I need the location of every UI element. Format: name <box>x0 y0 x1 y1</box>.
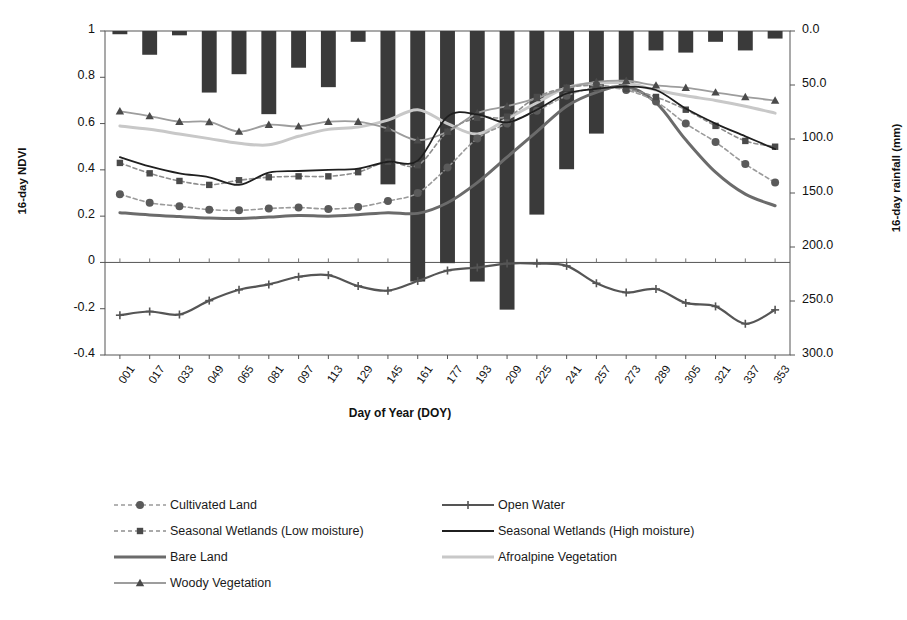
rainfall-bar <box>470 31 485 282</box>
rainfall-bar <box>500 31 515 310</box>
y-right-tick-label: 0.0 <box>802 22 862 36</box>
marker-circle <box>205 206 213 214</box>
legend-swatch-icon <box>440 524 496 538</box>
marker-square <box>444 128 450 134</box>
marker-square <box>137 528 143 534</box>
legend-swatch-icon <box>112 576 168 590</box>
legend-swatch-icon <box>112 498 168 512</box>
y-left-tick-label: -0.2 <box>43 300 95 314</box>
y-right-tick-label: 150.0 <box>802 184 862 198</box>
marker-circle <box>741 160 749 168</box>
marker-square <box>236 177 242 183</box>
marker-circle <box>265 205 273 213</box>
marker-square <box>117 160 123 166</box>
marker-square <box>325 173 331 179</box>
rainfall-bar <box>529 31 544 215</box>
y-axis-left-title: 16-day NDVI <box>16 101 28 261</box>
legend-label: Open Water <box>498 498 565 512</box>
marker-square <box>534 94 540 100</box>
y-right-tick-label: 100.0 <box>802 130 862 144</box>
y-left-tick-label: 0.6 <box>43 115 95 129</box>
marker-circle <box>771 179 779 187</box>
rainfall-bar <box>559 31 574 169</box>
y-left-tick-label: -0.4 <box>43 346 95 360</box>
y-left-tick-label: 0.8 <box>43 68 95 82</box>
marker-circle <box>116 190 124 198</box>
marker-circle <box>473 135 481 143</box>
legend-label: Seasonal Wetlands (Low moisture) <box>170 524 364 538</box>
y-left-tick-label: 0 <box>43 253 95 267</box>
marker-circle <box>136 501 144 509</box>
x-axis-title: Day of Year (DOY) <box>240 406 560 420</box>
y-right-tick-label: 200.0 <box>802 238 862 252</box>
legend-item[interactable]: Afroalpine Vegetation <box>440 550 617 564</box>
legend-item[interactable]: Bare Land <box>112 550 228 564</box>
legend-swatch-icon <box>440 550 496 564</box>
marker-circle <box>295 204 303 212</box>
marker-square <box>593 82 599 88</box>
rainfall-bar <box>232 31 247 74</box>
y-right-tick-label: 300.0 <box>802 346 862 360</box>
rainfall-bar <box>649 31 664 50</box>
marker-square <box>742 138 748 144</box>
legend-swatch-icon <box>440 498 496 512</box>
rainfall-bar <box>768 31 783 39</box>
rainfall-bar <box>261 31 276 114</box>
legend-label: Bare Land <box>170 550 228 564</box>
marker-circle <box>384 197 392 205</box>
marker-square <box>176 178 182 184</box>
marker-square <box>504 113 510 119</box>
legend-swatch-icon <box>112 524 168 538</box>
legend-item[interactable]: Open Water <box>440 498 565 512</box>
rainfall-bar <box>142 31 157 55</box>
marker-circle <box>682 120 690 128</box>
marker-square <box>295 173 301 179</box>
chart-figure: 16-day NDVI 16-day rainfall (mm) Day of … <box>0 0 907 620</box>
marker-circle <box>324 205 332 213</box>
marker-square <box>653 94 659 100</box>
legend-label: Cultivated Land <box>170 498 257 512</box>
rainfall-bar <box>410 31 425 282</box>
legend-label: Woody Vegetation <box>170 576 271 590</box>
marker-circle <box>146 199 154 207</box>
legend-label: Seasonal Wetlands (High moisture) <box>498 524 694 538</box>
rainfall-bar <box>708 31 723 42</box>
legend-item[interactable]: Woody Vegetation <box>112 576 271 590</box>
marker-circle <box>354 203 362 211</box>
y-left-tick-label: 0.4 <box>43 161 95 175</box>
marker-square <box>355 169 361 175</box>
marker-circle <box>235 206 243 214</box>
marker-square <box>206 182 212 188</box>
legend-item[interactable]: Seasonal Wetlands (High moisture) <box>440 524 694 538</box>
y-axis-right-title: 16-day rainfall (mm) <box>890 98 902 258</box>
rainfall-bar <box>202 31 217 93</box>
marker-circle <box>503 120 511 128</box>
rainfall-bar <box>172 31 187 35</box>
legend-item[interactable]: Cultivated Land <box>112 498 257 512</box>
rainfall-bar <box>440 31 455 263</box>
y-left-tick-label: 0.2 <box>43 207 95 221</box>
rainfall-bar <box>112 31 127 34</box>
rainfall-bar <box>738 31 753 50</box>
y-right-tick-label: 250.0 <box>802 292 862 306</box>
rainfall-bar <box>291 31 306 68</box>
marker-circle <box>414 189 422 197</box>
series-open-water <box>116 260 779 328</box>
rainfall-bar <box>678 31 693 53</box>
marker-circle <box>175 202 183 210</box>
marker-square <box>146 170 152 176</box>
y-left-tick-label: 1 <box>43 22 95 36</box>
marker-square <box>266 174 272 180</box>
rainfall-bar <box>321 31 336 87</box>
marker-circle <box>444 164 452 172</box>
legend-label: Afroalpine Vegetation <box>498 550 617 564</box>
marker-square <box>563 85 569 91</box>
marker-circle <box>712 138 720 146</box>
rainfall-bar <box>351 31 366 42</box>
y-right-tick-label: 50.0 <box>802 76 862 90</box>
legend-item[interactable]: Seasonal Wetlands (Low moisture) <box>112 524 364 538</box>
legend-swatch-icon <box>112 550 168 564</box>
marker-triangle <box>116 107 124 114</box>
